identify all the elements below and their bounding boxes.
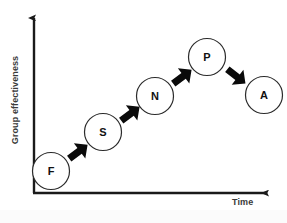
node-circle-norming[interactable] — [137, 78, 174, 115]
node-circle-forming[interactable] — [33, 153, 70, 190]
diagram-canvas: F S N P A Group effectiveness Time — [0, 0, 287, 223]
node-circle-adjourning[interactable] — [246, 77, 283, 114]
connector-p-to-a — [221, 62, 251, 91]
node-circle-performing[interactable] — [189, 39, 226, 76]
y-axis-label: Group effectiveness — [10, 40, 20, 160]
node-circle-storming[interactable] — [85, 114, 122, 151]
diagram-graphic — [0, 0, 287, 223]
x-axis-label: Time — [232, 197, 253, 207]
